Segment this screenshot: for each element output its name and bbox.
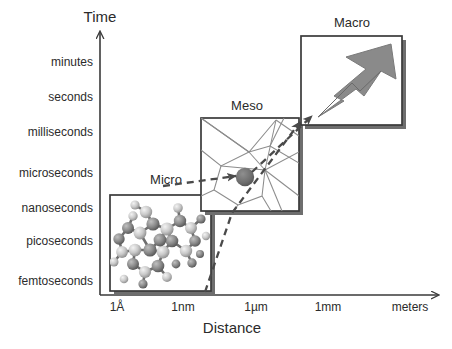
- y-tick-seconds: seconds: [48, 90, 93, 104]
- scale-box-macro[interactable]: [301, 36, 406, 129]
- scale-label-macro: Macro: [334, 15, 370, 30]
- y-tick-femtoseconds: femtoseconds: [18, 274, 93, 288]
- y-tick-picoseconds: picoseconds: [26, 234, 93, 248]
- x-axis-title: Distance: [203, 319, 261, 336]
- y-tick-minutes: minutes: [51, 55, 93, 69]
- scale-label-meso: Meso: [231, 98, 263, 113]
- x-axis-tick-labels: 1Å 1nm 1µm 1mm meters: [110, 299, 429, 314]
- y-axis-tick-labels: minutes seconds milliseconds microsecond…: [18, 55, 93, 288]
- meso-particle: [236, 168, 254, 186]
- meso-box-frame: [201, 118, 299, 211]
- x-tick-micrometer: 1µm: [244, 300, 268, 314]
- scale-box-meso[interactable]: [201, 118, 303, 215]
- y-tick-milliseconds: milliseconds: [28, 125, 93, 139]
- scale-box-micro[interactable]: [110, 195, 216, 295]
- x-tick-meters: meters: [392, 300, 429, 314]
- multiscale-diagram: Time Distance minutes seconds millisecon…: [0, 0, 452, 349]
- x-tick-millimeter: 1mm: [315, 300, 342, 314]
- x-tick-angstrom: 1Å: [110, 299, 125, 314]
- figure-canvas: Time Distance minutes seconds millisecon…: [0, 0, 452, 349]
- x-tick-nanometer: 1nm: [171, 300, 194, 314]
- y-axis-title: Time: [84, 8, 117, 25]
- y-tick-microseconds: microseconds: [19, 166, 93, 180]
- y-tick-nanoseconds: nanoseconds: [22, 201, 93, 215]
